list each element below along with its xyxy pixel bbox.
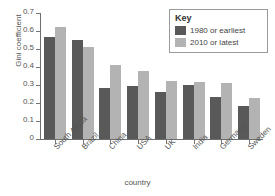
y-tick-label: 0.1 [23, 115, 34, 124]
legend-label-2010: 2010 or latest [190, 37, 238, 48]
legend-label-1980: 1980 or earliest [190, 25, 245, 36]
bar-group [127, 13, 149, 139]
y-tick-label: 0.6 [23, 25, 34, 34]
y-tick-label: 0.4 [23, 61, 34, 70]
bar [55, 27, 66, 140]
x-axis-title: country [0, 178, 275, 187]
bar [127, 86, 138, 139]
bar [155, 92, 166, 139]
gini-coefficient-bar-chart: Gini coefficient 00.10.20.30.40.50.60.7 … [0, 0, 275, 196]
legend-item-1980: 1980 or earliest [175, 25, 263, 36]
x-label-uk: UK [163, 137, 177, 151]
bar [210, 97, 221, 139]
legend-swatch-1980-icon [175, 26, 186, 35]
legend-title: Key [175, 13, 263, 23]
legend-item-2010: 2010 or latest [175, 37, 263, 48]
bar-group [99, 13, 121, 139]
y-tick-label: 0.5 [23, 43, 34, 52]
legend-swatch-2010-icon [175, 38, 186, 47]
y-tick-label: 0.2 [23, 97, 34, 106]
bar [183, 85, 194, 139]
x-axis-category-labels: South AfricaBrazilChinaUSAUKIndiaGermany… [0, 139, 275, 196]
bar [138, 71, 149, 139]
bar [194, 82, 205, 139]
y-tick-label: 0.7 [23, 7, 34, 16]
chart-legend: Key 1980 or earliest 2010 or latest [169, 9, 268, 53]
bar [44, 37, 55, 139]
bar-group [44, 13, 66, 139]
bar [166, 81, 177, 140]
bar [99, 88, 110, 139]
y-tick-label: 0.3 [23, 79, 34, 88]
bar [110, 65, 121, 139]
